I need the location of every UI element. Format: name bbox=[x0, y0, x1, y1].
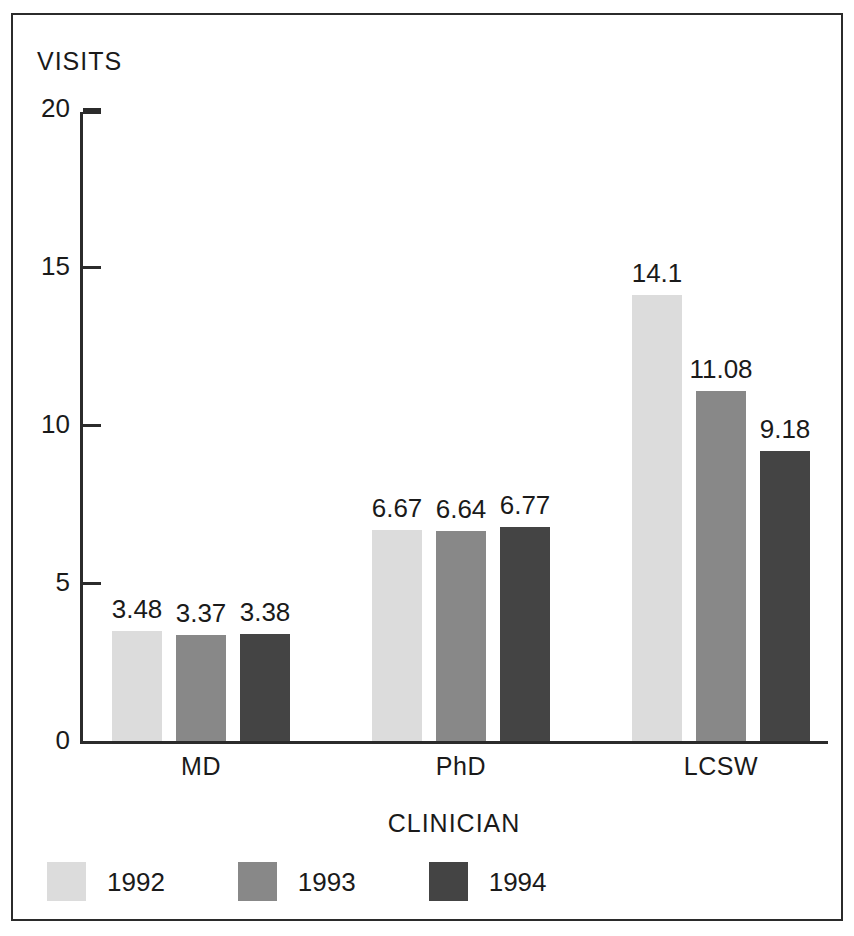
plot-area: 20151050 3.483.373.386.676.646.7714.111.… bbox=[80, 112, 828, 744]
bar: 3.37 bbox=[176, 635, 226, 741]
legend-item: 1993 bbox=[238, 862, 429, 901]
y-axis-tick-label: 20 bbox=[41, 95, 70, 121]
y-axis-cap bbox=[83, 111, 101, 114]
x-axis-category-label: MD bbox=[181, 754, 221, 779]
legend-label: 1994 bbox=[489, 869, 547, 895]
y-axis-tick-label: 15 bbox=[41, 253, 70, 279]
y-axis-tick-label: 5 bbox=[56, 569, 70, 595]
bar: 9.18 bbox=[760, 451, 810, 741]
bar-value-label: 9.18 bbox=[760, 416, 811, 442]
bar: 6.64 bbox=[436, 531, 486, 741]
bar: 3.38 bbox=[240, 634, 290, 741]
y-axis-tick-label: 10 bbox=[41, 411, 70, 437]
bar: 3.48 bbox=[112, 631, 162, 741]
legend-label: 1992 bbox=[107, 869, 165, 895]
x-axis-category-label: PhD bbox=[436, 754, 486, 779]
bar-value-label: 14.1 bbox=[632, 260, 683, 286]
bar: 11.08 bbox=[696, 391, 746, 741]
legend: 199219931994 bbox=[47, 862, 620, 901]
bar: 6.67 bbox=[372, 530, 422, 741]
x-axis-title: CLINICIAN bbox=[80, 809, 828, 838]
legend-label: 1993 bbox=[298, 869, 356, 895]
legend-swatch-icon bbox=[238, 862, 277, 901]
bar-value-label: 6.64 bbox=[436, 496, 487, 522]
y-axis-tick: 5 bbox=[83, 582, 101, 585]
figure-frame: VISITS 20151050 3.483.373.386.676.646.77… bbox=[11, 13, 843, 921]
y-axis-title: VISITS bbox=[37, 47, 122, 76]
y-axis-tick: 10 bbox=[83, 424, 101, 427]
y-axis-tick-label: 0 bbox=[56, 727, 70, 753]
legend-item: 1994 bbox=[429, 862, 620, 901]
x-axis-category-label: LCSW bbox=[684, 754, 759, 779]
bar-value-label: 6.77 bbox=[500, 492, 551, 518]
bar-chart: VISITS 20151050 3.483.373.386.676.646.77… bbox=[13, 15, 845, 923]
y-axis-tick: 20 bbox=[83, 108, 101, 111]
legend-swatch-icon bbox=[429, 862, 468, 901]
legend-swatch-icon bbox=[47, 862, 86, 901]
bar-value-label: 11.08 bbox=[689, 356, 752, 382]
bar: 6.77 bbox=[500, 527, 550, 741]
bar-value-label: 6.67 bbox=[372, 495, 423, 521]
y-axis-tick: 0 bbox=[83, 740, 101, 743]
bar: 14.1 bbox=[632, 295, 682, 741]
bar-value-label: 3.48 bbox=[112, 596, 163, 622]
legend-item: 1992 bbox=[47, 862, 238, 901]
bar-value-label: 3.37 bbox=[176, 600, 227, 626]
bar-value-label: 3.38 bbox=[240, 599, 291, 625]
y-axis-tick: 15 bbox=[83, 266, 101, 269]
